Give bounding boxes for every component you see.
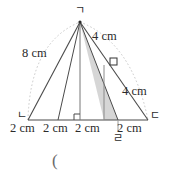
vertex-label-base-right: ㄷ: [150, 110, 160, 121]
base-segment-label-4: 2 cm: [117, 122, 142, 135]
geometry-figure: ㄱ ㄴ ㄷ ㄹ 8 cm 4 cm 4 cm 2 cm 2 cm 2 cm 2 …: [0, 0, 174, 179]
right-angle-base-icon: [74, 114, 80, 120]
base-segment-label-1: 2 cm: [10, 122, 35, 135]
side-label-right: 4 cm: [122, 85, 147, 98]
side-label-top-right: 4 cm: [92, 30, 117, 43]
geometry-svg: [0, 0, 174, 179]
base-segment-label-2: 2 cm: [43, 122, 68, 135]
vertex-label-base-left: ㄴ: [17, 110, 27, 121]
caption-paren: (: [52, 152, 58, 169]
side-label-left: 8 cm: [22, 47, 47, 60]
guide-arc-dotted: [28, 22, 148, 120]
vertex-label-apex: ㄱ: [75, 5, 85, 16]
base-segment-label-3: 2 cm: [75, 122, 100, 135]
cevian-left: [58, 22, 80, 120]
right-angle-slant-icon: [110, 58, 117, 65]
apex-dot: [78, 20, 81, 23]
